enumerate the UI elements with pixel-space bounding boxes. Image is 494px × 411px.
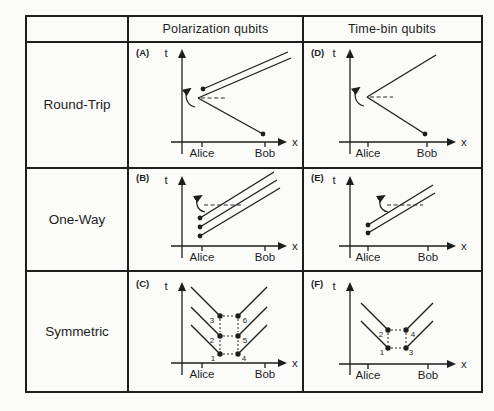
event-dot bbox=[198, 216, 203, 221]
photon-worldline-bob-to-alice bbox=[198, 98, 263, 134]
panel-e-spacetime-diagram: (E) t x Alice Bob bbox=[303, 168, 481, 270]
photon-worldlines-to-alice bbox=[361, 303, 388, 348]
row-label-text: Symmetric bbox=[45, 324, 109, 339]
alice-label: Alice bbox=[190, 251, 215, 263]
panel-label: (D) bbox=[311, 47, 324, 58]
rotation-arrow-icon bbox=[355, 88, 364, 106]
event-dot bbox=[235, 351, 240, 356]
photon-worldlines-double bbox=[368, 185, 435, 233]
event-dot bbox=[423, 132, 428, 137]
event-column-dashed-connectors bbox=[388, 333, 406, 345]
photon-worldlines-triple bbox=[200, 172, 280, 236]
panel-c-spacetime-diagram: (C) t x Alice Bob 1 2 3 4 5 6 bbox=[128, 271, 303, 391]
event-dot bbox=[366, 223, 371, 228]
row-label-text: Round-Trip bbox=[43, 97, 110, 112]
panel-d-spacetime-diagram: (D) t x Alice Bob bbox=[303, 42, 481, 168]
event-dot bbox=[261, 132, 266, 137]
t-axis-label: t bbox=[164, 47, 168, 59]
event-dot bbox=[235, 313, 240, 318]
event-number: 5 bbox=[243, 336, 248, 345]
alice-label: Alice bbox=[356, 147, 381, 159]
photon-worldline-bob-to-alice bbox=[367, 97, 425, 134]
event-dot bbox=[385, 327, 390, 332]
header-label-polarization: Polarization qubits bbox=[163, 22, 269, 36]
event-dot bbox=[217, 333, 222, 338]
event-dot bbox=[366, 231, 371, 236]
row-label-symmetric: Symmetric bbox=[27, 271, 127, 391]
event-dot bbox=[201, 87, 206, 92]
x-axis-label: x bbox=[461, 358, 467, 370]
row-label-text: One-Way bbox=[49, 212, 106, 227]
event-dot bbox=[217, 351, 222, 356]
panel-label: (F) bbox=[311, 278, 323, 289]
event-number: 4 bbox=[242, 354, 247, 363]
alice-label: Alice bbox=[356, 251, 381, 263]
t-axis-label: t bbox=[164, 280, 168, 292]
panel-label: (E) bbox=[311, 172, 324, 183]
rotation-arrow-icon bbox=[380, 196, 388, 212]
event-dot bbox=[198, 225, 203, 230]
event-number: 2 bbox=[379, 330, 384, 339]
event-dot bbox=[385, 345, 390, 350]
bob-label: Bob bbox=[417, 147, 437, 159]
photon-worldlines-to-alice bbox=[191, 287, 220, 354]
t-axis-label: t bbox=[164, 174, 168, 186]
event-number: 2 bbox=[210, 336, 215, 345]
header-cell-polarization: Polarization qubits bbox=[128, 17, 303, 41]
event-dot bbox=[403, 327, 408, 332]
alice-label: Alice bbox=[190, 368, 215, 380]
event-column-dashed-connectors bbox=[220, 319, 238, 350]
alice-label: Alice bbox=[190, 147, 215, 159]
panel-b-spacetime-diagram: (B) t x Alice Bob bbox=[128, 168, 303, 270]
photon-worldlines-to-bob bbox=[406, 303, 433, 348]
bob-label: Bob bbox=[418, 369, 438, 381]
panel-label: (B) bbox=[136, 172, 149, 183]
event-dot bbox=[217, 313, 222, 318]
event-number: 1 bbox=[211, 354, 216, 363]
x-axis-label: x bbox=[461, 136, 467, 148]
panel-label: (C) bbox=[136, 278, 149, 289]
t-axis-label: t bbox=[332, 47, 336, 59]
row-label-one-way: One-Way bbox=[27, 168, 127, 270]
panel-label: (A) bbox=[136, 47, 149, 58]
photon-worldline-return-double bbox=[198, 52, 291, 98]
event-number: 4 bbox=[411, 330, 416, 339]
event-dot bbox=[235, 333, 240, 338]
x-axis-label: x bbox=[292, 357, 298, 369]
panel-f-spacetime-diagram: (F) t x Alice Bob 1 2 3 4 bbox=[303, 271, 481, 391]
event-number: 3 bbox=[210, 316, 215, 325]
bob-label: Bob bbox=[255, 251, 275, 263]
bob-label: Bob bbox=[418, 251, 438, 263]
t-axis-label: t bbox=[332, 280, 336, 292]
event-number: 3 bbox=[409, 348, 414, 357]
panel-a-spacetime-diagram: (A) t x Alice Bob bbox=[128, 42, 303, 168]
header-cell-timebin: Time-bin qubits bbox=[303, 17, 481, 41]
photon-worldline-return-single bbox=[367, 55, 436, 97]
figure-root: Polarization qubits Time-bin qubits Roun… bbox=[0, 0, 494, 411]
event-pair-dashed-connectors bbox=[223, 316, 235, 354]
bob-label: Bob bbox=[255, 368, 275, 380]
rotation-arrow-icon bbox=[186, 89, 195, 107]
bob-label: Bob bbox=[255, 147, 275, 159]
x-axis-label: x bbox=[292, 240, 298, 252]
row-label-round-trip: Round-Trip bbox=[27, 42, 127, 167]
t-axis-label: t bbox=[332, 174, 336, 186]
event-number: 1 bbox=[380, 348, 385, 357]
event-number: 6 bbox=[243, 316, 248, 325]
header-label-timebin: Time-bin qubits bbox=[348, 22, 436, 36]
x-axis-label: x bbox=[461, 240, 467, 252]
rotation-arrow-icon bbox=[197, 196, 205, 212]
x-axis-label: x bbox=[292, 136, 298, 148]
alice-label: Alice bbox=[356, 369, 381, 381]
event-dot bbox=[198, 234, 203, 239]
event-pair-dashed-connectors bbox=[391, 330, 403, 348]
